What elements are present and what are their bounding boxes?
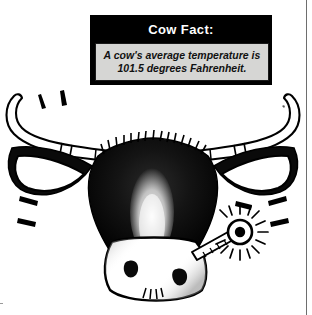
- cow-fact-header: Cow Fact:: [91, 16, 271, 42]
- emphasis-left-lower: [17, 218, 36, 227]
- thermometer-bulb-core: [235, 227, 245, 237]
- emphasis-left-upper: [19, 196, 38, 206]
- cow-fact-body: A cow's average temperature is 101.5 deg…: [95, 43, 269, 81]
- cow-fact-box: Cow Fact: A cow's average temperature is…: [90, 15, 272, 85]
- emphasis-top-left: [38, 94, 46, 109]
- muzzle-group: [105, 238, 206, 301]
- emphasis-right-upper: [268, 196, 287, 206]
- emphasis-right-lower: [270, 218, 289, 227]
- page-canvas: Cow Fact: A cow's average temperature is…: [0, 0, 312, 315]
- cow-fact-text: A cow's average temperature is 101.5 deg…: [96, 49, 268, 76]
- emphasis-ear-right: [235, 201, 252, 210]
- cow-illustration: [0, 84, 306, 315]
- page-border-right: [306, 0, 307, 315]
- left-horn-ridge-3: [95, 149, 96, 159]
- cow-fact-title: Cow Fact:: [148, 23, 214, 36]
- right-horn-ridge-3: [210, 149, 211, 159]
- emphasis-top-right: [60, 90, 67, 106]
- ink-fleck: [282, 105, 285, 108]
